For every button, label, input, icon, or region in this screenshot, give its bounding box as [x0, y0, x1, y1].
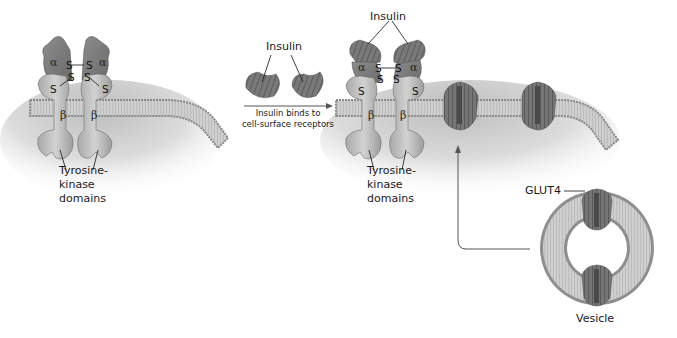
- insulin-glut4-diagram: α α S S S S S S β β Tyrosine- kinase dom…: [0, 0, 677, 338]
- tyrosine-kinase-label-right: Tyrosine- kinase domains: [367, 164, 416, 206]
- disulfide-s-label: S: [102, 82, 109, 96]
- insulin-molecule: [292, 72, 323, 98]
- disulfide-s-label: S: [50, 82, 57, 96]
- alpha-label: α: [410, 61, 417, 75]
- disulfide-s-label: S: [412, 84, 419, 98]
- insulin-label: Insulin: [370, 10, 406, 24]
- glut4-label: GLUT4: [525, 184, 561, 198]
- beta-label: β: [91, 109, 97, 123]
- insulin-binding-step: [244, 55, 333, 109]
- disulfide-s-label: S: [68, 70, 75, 84]
- glut4-transporter-membrane: [444, 82, 478, 130]
- disulfide-s-label: S: [377, 72, 384, 86]
- glut4-transporter-vesicle: [582, 265, 612, 306]
- alpha-label: α: [50, 56, 57, 70]
- disulfide-s-label: S: [358, 84, 365, 98]
- insulin-label: Insulin: [266, 40, 302, 54]
- binding-caption: Insulin binds to cell-surface receptors: [240, 108, 336, 129]
- tyrosine-kinase-label-left: Tyrosine- kinase domains: [59, 164, 108, 206]
- alpha-label: α: [358, 61, 365, 75]
- beta-label: β: [400, 109, 406, 123]
- disulfide-s-label: S: [393, 72, 400, 86]
- left-cell-panel: [0, 36, 228, 200]
- beta-label: β: [368, 109, 374, 123]
- glut4-transporter-membrane: [522, 82, 556, 130]
- alpha-label: α: [99, 56, 106, 70]
- vesicle: [540, 189, 654, 306]
- beta-label: β: [60, 109, 66, 123]
- vesicle-label: Vesicle: [576, 312, 614, 326]
- insulin-molecule: [246, 72, 280, 98]
- glut4-transporter-vesicle: [582, 189, 612, 230]
- disulfide-s-label: S: [84, 70, 91, 84]
